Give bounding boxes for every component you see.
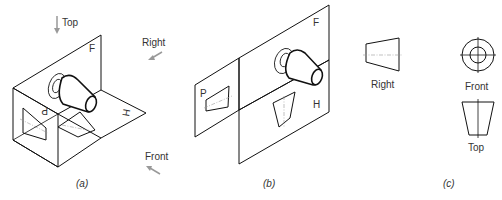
right-direction-label: Right <box>142 37 166 48</box>
profile-projection <box>206 86 229 111</box>
frontal-plane-label: F <box>313 17 319 28</box>
right-view <box>366 38 399 71</box>
top-view-label: Top <box>468 142 485 153</box>
orthographic-projection-figure: Top Right Front <box>0 0 502 200</box>
right-view-label: Right <box>371 79 395 90</box>
horizontal-plane-label: H <box>313 99 320 110</box>
horizontal-plane-label: H <box>120 108 132 117</box>
front-view-label: Front <box>465 81 489 92</box>
panel-b-unfolded-planes: P F H (b) <box>195 5 329 189</box>
panel-c-orthographic-views: Right Front Top (c) <box>363 37 496 189</box>
panel-b-caption: (b) <box>263 178 275 189</box>
panel-a-isometric-box: Top Right Front <box>13 16 169 189</box>
profile-plane-label: P <box>41 105 48 116</box>
profile-plane-label: P <box>200 88 207 99</box>
cone-object <box>271 46 324 87</box>
front-view <box>460 37 496 73</box>
top-direction-label: Top <box>62 17 79 28</box>
panel-c-caption: (c) <box>443 178 455 189</box>
front-direction-label: Front <box>145 151 169 162</box>
cone-object <box>45 71 98 113</box>
profile-plane <box>13 88 58 167</box>
top-arrow-icon <box>54 16 60 34</box>
right-arrow-icon <box>148 52 162 60</box>
frontal-plane-label: F <box>89 43 95 54</box>
panel-a-caption: (a) <box>76 178 88 189</box>
front-arrow-icon <box>146 166 160 174</box>
